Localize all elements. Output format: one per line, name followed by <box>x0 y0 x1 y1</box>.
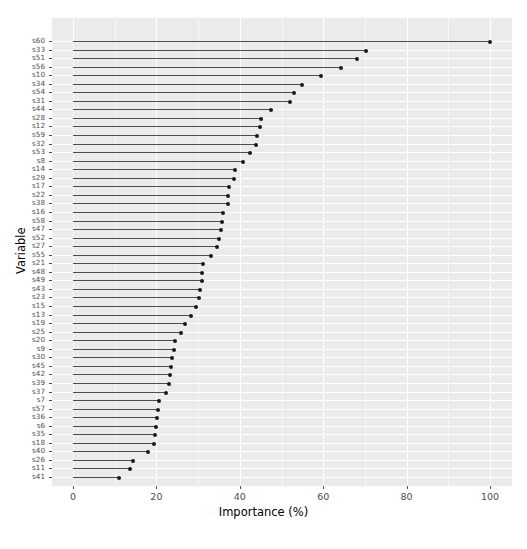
y-axis-tick-mark <box>49 323 52 324</box>
lollipop-point <box>198 288 202 292</box>
lollipop-point <box>300 83 304 87</box>
x-axis-tick-mark <box>490 486 491 489</box>
lollipop-stem <box>73 203 228 204</box>
y-axis-tick-mark <box>49 280 52 281</box>
y-axis-tick-label: s19 <box>23 319 45 327</box>
lollipop-stem <box>73 50 366 51</box>
lollipop-stem <box>73 306 196 307</box>
lollipop-point <box>269 108 273 112</box>
lollipop-stem <box>73 263 203 264</box>
lollipop-stem <box>73 349 174 350</box>
gridline-vertical-minor <box>365 18 366 486</box>
y-axis-tick-label: s60 <box>23 37 45 45</box>
gridline-vertical-minor <box>448 18 449 486</box>
lollipop-stem <box>73 126 260 127</box>
lollipop-point <box>255 134 259 138</box>
lollipop-point <box>364 49 368 53</box>
lollipop-stem <box>73 374 170 375</box>
lollipop-stem <box>73 67 341 68</box>
lollipop-stem <box>73 272 202 273</box>
lollipop-point <box>117 476 121 480</box>
y-axis-tick-mark <box>49 75 52 76</box>
y-axis-tick-mark <box>49 101 52 102</box>
lollipop-stem <box>73 186 229 187</box>
y-axis-tick-label: s53 <box>23 148 45 156</box>
y-axis-tick-mark <box>49 451 52 452</box>
y-axis-tick-mark <box>49 67 52 68</box>
gridline-vertical-minor <box>282 18 283 486</box>
x-axis-tick-mark <box>240 486 241 489</box>
lollipop-stem <box>73 426 156 427</box>
gridline-vertical-minor <box>198 18 199 486</box>
lollipop-point <box>258 125 262 129</box>
lollipop-stem <box>73 417 157 418</box>
y-axis-tick-mark <box>49 246 52 247</box>
gridline-vertical-major <box>407 18 408 486</box>
y-axis-tick-mark <box>49 186 52 187</box>
y-axis-tick-label: s15 <box>23 302 45 310</box>
y-axis-tick-mark <box>49 443 52 444</box>
lollipop-stem <box>73 169 235 170</box>
lollipop-stem <box>73 92 294 93</box>
y-axis-tick-label: s7 <box>23 396 45 404</box>
lollipop-point <box>154 425 158 429</box>
lollipop-stem <box>73 357 172 358</box>
lollipop-point <box>146 450 150 454</box>
lollipop-stem <box>73 144 256 145</box>
lollipop-point <box>194 305 198 309</box>
lollipop-stem <box>73 451 148 452</box>
lollipop-stem <box>73 238 219 239</box>
y-axis-tick-mark <box>49 426 52 427</box>
y-axis-tick-mark <box>49 332 52 333</box>
lollipop-point <box>319 74 323 78</box>
lollipop-point <box>200 279 204 283</box>
lollipop-point <box>209 254 213 258</box>
y-axis-tick-mark <box>49 178 52 179</box>
lollipop-stem <box>73 297 199 298</box>
lollipop-point <box>232 177 236 181</box>
x-axis-tick-mark <box>407 486 408 489</box>
lollipop-stem <box>73 246 217 247</box>
lollipop-point <box>172 348 176 352</box>
y-axis-tick-mark <box>49 109 52 110</box>
y-axis-tick-mark <box>49 118 52 119</box>
lollipop-stem <box>73 400 159 401</box>
y-axis-tick-label: s16 <box>23 208 45 216</box>
lollipop-stem <box>73 221 222 222</box>
y-axis-tick-mark <box>49 161 52 162</box>
lollipop-point <box>226 194 230 198</box>
lollipop-stem <box>73 323 185 324</box>
y-axis-tick-mark <box>49 392 52 393</box>
x-axis-tick-label: 40 <box>220 491 260 502</box>
gridline-vertical-major <box>490 18 491 486</box>
lollipop-stem <box>73 280 202 281</box>
lollipop-stem <box>73 118 261 119</box>
lollipop-point <box>179 331 183 335</box>
y-axis-tick-mark <box>49 357 52 358</box>
lollipop-point <box>168 373 172 377</box>
y-axis-tick-label: s10 <box>23 71 45 79</box>
lollipop-stem <box>73 332 181 333</box>
lollipop-point <box>152 442 156 446</box>
lollipop-stem <box>73 460 133 461</box>
lollipop-point <box>183 322 187 326</box>
lollipop-point <box>157 399 161 403</box>
x-axis-title: Importance (%) <box>0 505 527 519</box>
gridline-horizontal <box>52 477 512 478</box>
lollipop-point <box>131 459 135 463</box>
x-axis-tick-mark <box>73 486 74 489</box>
y-axis-tick-mark <box>49 417 52 418</box>
y-axis-tick-mark <box>49 126 52 127</box>
x-axis-tick-mark <box>323 486 324 489</box>
y-axis-tick-mark <box>49 349 52 350</box>
y-axis-tick-label: s59 <box>23 131 45 139</box>
lollipop-stem <box>73 434 155 435</box>
lollipop-stem <box>73 366 171 367</box>
lollipop-point <box>220 220 224 224</box>
lollipop-point <box>173 339 177 343</box>
lollipop-stem <box>73 101 290 102</box>
gridline-vertical-major <box>240 18 241 486</box>
gridline-vertical-major <box>323 18 324 486</box>
lollipop-point <box>292 91 296 95</box>
y-axis-tick-mark <box>49 212 52 213</box>
